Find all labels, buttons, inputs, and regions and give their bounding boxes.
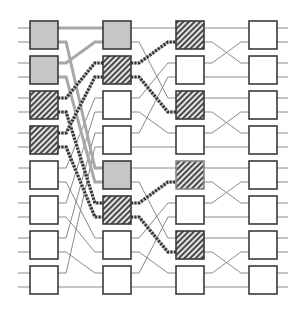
hatched-switch-box <box>176 91 204 119</box>
plain-switch-box <box>249 161 277 189</box>
plain-switch-box <box>103 231 131 259</box>
wire <box>204 252 249 273</box>
gray-switch-box <box>103 161 131 189</box>
plain-switch-box <box>30 231 58 259</box>
wire <box>131 182 176 238</box>
gray-switch-box <box>30 56 58 84</box>
gray-switch-box <box>30 21 58 49</box>
wire <box>131 77 176 133</box>
hatched-switch-box <box>176 161 204 189</box>
plain-switch-box <box>176 196 204 224</box>
hatched-switch-box <box>176 21 204 49</box>
hatched-switch-box <box>103 196 131 224</box>
plain-switch-box <box>249 91 277 119</box>
wire <box>131 217 176 273</box>
plain-switch-box <box>103 126 131 154</box>
wire <box>131 252 176 273</box>
plain-switch-box <box>30 161 58 189</box>
hatched-path-wire <box>131 77 176 112</box>
wire <box>204 42 249 63</box>
gray-path-wire <box>58 42 103 63</box>
wire <box>131 112 176 133</box>
plain-switch-box <box>103 91 131 119</box>
plain-switch-box <box>30 266 58 294</box>
plain-switch-box <box>103 266 131 294</box>
wire <box>58 147 103 273</box>
hatched-path-wire-dash <box>131 42 176 63</box>
wire <box>204 112 249 133</box>
plain-switch-box <box>249 231 277 259</box>
plain-switch-box <box>249 21 277 49</box>
hatched-switch-box <box>103 56 131 84</box>
wire <box>58 217 103 252</box>
wire <box>204 182 249 203</box>
hatched-path-wire <box>131 217 176 252</box>
plain-switch-box <box>176 266 204 294</box>
plain-switch-box <box>176 56 204 84</box>
hatched-switch-box <box>30 91 58 119</box>
plain-switch-box <box>249 196 277 224</box>
wire <box>131 42 176 98</box>
plain-switch-box <box>249 266 277 294</box>
plain-switch-box <box>249 126 277 154</box>
hatched-path-wire-dash <box>131 182 176 203</box>
wire <box>58 252 103 273</box>
hatched-switch-box <box>30 126 58 154</box>
gray-path-wire <box>58 77 103 182</box>
interconnection-network-diagram <box>0 0 303 309</box>
gray-switch-box <box>103 21 131 49</box>
plain-switch-box <box>249 56 277 84</box>
plain-switch-box <box>30 196 58 224</box>
hatched-path-wire <box>58 63 103 98</box>
plain-switch-box <box>176 126 204 154</box>
hatched-switch-box <box>176 231 204 259</box>
